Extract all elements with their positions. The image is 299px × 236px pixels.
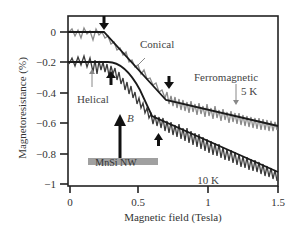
label-nanowire: MnSi NW <box>95 157 137 168</box>
y-tick-5: −1 <box>44 178 56 190</box>
y-tick-3: −0.6 <box>36 117 56 129</box>
y-tick-0: 0 <box>51 26 57 38</box>
b-field-arrow-icon <box>114 114 126 126</box>
y-axis-labels: 0 −0.2 −0.4 −0.6 −0.8 −1 <box>36 26 56 190</box>
label-b-field: B <box>127 112 134 124</box>
up-arrow-icon <box>154 133 163 146</box>
up-arrow-icon <box>106 71 116 85</box>
ferromagnetic-arrowhead-icon <box>233 100 239 105</box>
label-5k: 5 K <box>241 85 257 97</box>
helical-arrowhead-icon <box>89 69 95 74</box>
y-tick-4: −0.8 <box>36 148 56 160</box>
x-axis-labels: 0 0.5 1 1.5 <box>67 196 285 208</box>
y-tick-1: −0.2 <box>36 56 56 68</box>
label-10k: 10 K <box>197 174 219 186</box>
x-tick-2: 1 <box>205 196 211 208</box>
down-arrow-icon <box>99 16 109 30</box>
y-axis-ticks <box>60 32 68 184</box>
b-field-arrow-shaft <box>119 124 122 158</box>
down-arrow-icon <box>164 76 174 89</box>
magnetoresistance-chart: 0 −0.2 −0.4 −0.6 −0.8 −1 0 0.5 1 1.5 Mag… <box>0 0 299 236</box>
x-tick-0: 0 <box>67 196 73 208</box>
label-ferromagnetic: Ferromagnetic <box>194 71 258 83</box>
y-axis-title: Magnetoresistance (%) <box>16 57 29 159</box>
label-helical: Helical <box>77 93 109 105</box>
label-conical: Conical <box>140 38 174 50</box>
x-axis-title: Magnetic field (Tesla) <box>124 211 222 224</box>
x-axis-ticks <box>70 186 278 193</box>
x-tick-1: 0.5 <box>131 196 145 208</box>
x-tick-3: 1.5 <box>271 196 285 208</box>
y-tick-2: −0.4 <box>36 87 56 99</box>
conical-pointer <box>137 58 145 66</box>
